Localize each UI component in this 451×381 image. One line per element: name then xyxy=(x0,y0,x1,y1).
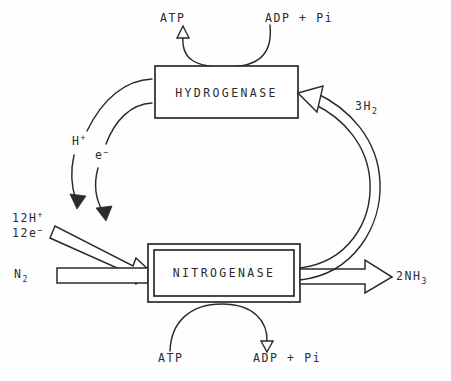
hydrogen-gas-subscript: 2 xyxy=(372,106,379,116)
nitrogenase-label: NITROGENASE xyxy=(173,266,276,280)
ammonia-text: 2NH xyxy=(396,269,422,283)
electron-curve-upper xyxy=(106,103,152,144)
pathway-diagram: ATP ADP + Pi HYDROGENASE H+ e− 12H+ xyxy=(0,0,451,381)
electron-charge: − xyxy=(104,147,111,157)
proton-curve-lower xyxy=(72,155,76,200)
atp-adp-bottom-arc-group: ATP ADP + Pi xyxy=(158,304,321,365)
atp-bottom-label: ATP xyxy=(158,351,184,365)
electron-arrowhead xyxy=(96,206,112,221)
twelve-protons-charge: + xyxy=(38,210,45,220)
adp-pi-bottom-label: ADP + Pi xyxy=(253,351,321,365)
twelve-protons-label: 12H+ xyxy=(12,210,44,225)
atp-adp-bottom-arc xyxy=(170,304,267,351)
nitrogenase-node[interactable]: NITROGENASE xyxy=(148,244,300,302)
h2-curve-outer xyxy=(300,104,370,268)
hydrogen-gas-label: 3H2 xyxy=(355,99,379,116)
ammonia-label: 2NH3 xyxy=(396,269,428,286)
twelve-electrons-text: 12e xyxy=(12,226,38,240)
atp-top-label: ATP xyxy=(160,11,186,25)
n2-block-arrow-shaft xyxy=(57,268,148,283)
twelve-protons-text: 12H xyxy=(12,211,38,225)
hydrogenase-node[interactable]: HYDROGENASE xyxy=(155,66,298,118)
proton-label-text: H xyxy=(72,134,81,148)
proton-electron-arrows-group: H+ e− xyxy=(70,79,152,221)
twelve-electrons-charge: − xyxy=(38,225,45,235)
hydrogen-gas-text: 3H xyxy=(355,99,372,113)
electron-curve-lower xyxy=(96,168,103,212)
adp-pi-top-label: ADP + Pi xyxy=(265,11,333,25)
electron-label-text: e xyxy=(95,148,104,162)
hydrogenase-label: HYDROGENASE xyxy=(175,86,278,100)
atp-top-arrowhead xyxy=(177,26,189,38)
dinitrogen-subscript: 2 xyxy=(23,274,30,284)
dinitrogen-text: N xyxy=(14,267,23,281)
proton-arrowhead xyxy=(70,194,86,209)
dinitrogen-input-arrow: N2 xyxy=(14,267,148,284)
proton-label: H+ xyxy=(72,133,87,148)
hydrogen-gas-recycle-arrow: 3H2 xyxy=(298,86,380,280)
dinitrogen-label: N2 xyxy=(14,267,29,284)
h2-arrowhead xyxy=(298,86,323,112)
proton-charge: + xyxy=(81,133,88,143)
electron-label: e− xyxy=(95,147,110,162)
ammonia-subscript: 3 xyxy=(422,276,429,286)
diagram-canvas: ATP ADP + Pi HYDROGENASE H+ e− 12H+ xyxy=(0,0,451,381)
atp-adp-top-arc-group: ATP ADP + Pi xyxy=(160,11,333,67)
atp-adp-top-arc xyxy=(183,25,271,67)
twelve-electrons-label: 12e− xyxy=(12,225,44,240)
